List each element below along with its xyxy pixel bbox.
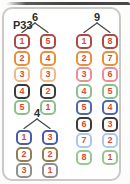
number-cell-digit: 1 — [107, 153, 112, 162]
bond-pair-row: 15 — [14, 34, 56, 49]
number-cell: 4 — [102, 100, 118, 115]
bond-pair-row: 45 — [76, 84, 118, 99]
number-cell: 3 — [76, 67, 92, 82]
number-cell: 5 — [102, 84, 118, 99]
bond-pairs: 1524334251 — [14, 34, 56, 115]
number-cell-digit: 3 — [81, 70, 86, 79]
number-cell-digit: 3 — [21, 166, 26, 175]
bond-pair-row: 31 — [16, 163, 58, 178]
bond-pair-row: 54 — [76, 100, 118, 115]
number-cell: 8 — [102, 34, 118, 49]
card-id: P33 — [13, 19, 33, 31]
number-cell-digit: 2 — [21, 150, 26, 159]
bond-pair-row: 24 — [14, 51, 56, 66]
bond-pair-row: 42 — [14, 84, 56, 99]
number-cell: 1 — [16, 130, 32, 145]
bond-pair-row: 13 — [16, 130, 58, 145]
number-cell: 7 — [102, 51, 118, 66]
number-cell: 3 — [42, 130, 58, 145]
bond-pair-row: 22 — [16, 147, 58, 162]
number-cell-digit: 2 — [81, 54, 86, 63]
number-cell: 2 — [76, 51, 92, 66]
bond-pair-row: 81 — [76, 150, 118, 165]
number-bond-group-4: 4132231 — [16, 107, 58, 178]
number-cell: 1 — [76, 34, 92, 49]
number-cell-digit: 8 — [107, 37, 112, 46]
bond-pair-row: 63 — [76, 117, 118, 132]
number-cell-digit: 1 — [21, 133, 26, 142]
number-cell-digit: 2 — [45, 87, 50, 96]
number-cell: 2 — [42, 147, 58, 162]
number-cell: 3 — [14, 67, 30, 82]
number-cell: 5 — [40, 34, 56, 49]
number-cell-digit: 4 — [45, 54, 50, 63]
bond-branch-lines-icon — [76, 22, 118, 33]
number-cell-digit: 2 — [19, 54, 24, 63]
top-sheet-edge — [6, 2, 130, 5]
number-cell-digit: 2 — [107, 136, 112, 145]
number-cell: 2 — [14, 51, 30, 66]
number-cell-digit: 1 — [47, 166, 52, 175]
number-cell: 5 — [76, 100, 92, 115]
number-cell-digit: 6 — [81, 120, 86, 129]
number-cell: 8 — [76, 150, 92, 165]
bond-pair-row: 33 — [14, 67, 56, 82]
number-cell-digit: 3 — [47, 133, 52, 142]
number-cell: 1 — [42, 163, 58, 178]
number-cell: 2 — [16, 147, 32, 162]
number-cell-digit: 3 — [107, 120, 112, 129]
number-cell-digit: 4 — [107, 103, 112, 112]
number-cell-digit: 3 — [45, 70, 50, 79]
number-cell: 4 — [76, 84, 92, 99]
number-cell-digit: 6 — [107, 70, 112, 79]
number-cell: 1 — [14, 34, 30, 49]
number-cell: 3 — [40, 67, 56, 82]
number-cell: 4 — [40, 51, 56, 66]
bond-pair-row: 72 — [76, 133, 118, 148]
number-cell-digit: 5 — [107, 87, 112, 96]
number-cell: 4 — [14, 84, 30, 99]
number-cell: 1 — [102, 150, 118, 165]
number-bond-group-9: 91827364554637281 — [76, 11, 118, 165]
number-cell-digit: 5 — [45, 37, 50, 46]
number-cell: 7 — [76, 133, 92, 148]
bond-pair-row: 36 — [76, 67, 118, 82]
number-cell: 3 — [16, 163, 32, 178]
number-cell-digit: 1 — [81, 37, 86, 46]
number-cell: 6 — [102, 67, 118, 82]
number-cell-digit: 8 — [81, 153, 86, 162]
number-cell-digit: 1 — [19, 37, 24, 46]
number-cell-digit: 7 — [81, 136, 86, 145]
bond-branch-lines-icon — [16, 118, 58, 129]
number-cell: 6 — [76, 117, 92, 132]
bond-pairs: 132231 — [16, 130, 58, 178]
number-cell-digit: 4 — [19, 87, 24, 96]
number-cell-digit: 2 — [47, 150, 52, 159]
number-cell: 3 — [102, 117, 118, 132]
bond-pair-row: 18 — [76, 34, 118, 49]
number-cell: 2 — [102, 133, 118, 148]
bond-pairs: 1827364554637281 — [76, 34, 118, 165]
number-cell-digit: 7 — [107, 54, 112, 63]
number-cell-digit: 4 — [81, 87, 86, 96]
number-cell: 2 — [40, 84, 56, 99]
number-cell-digit: 3 — [19, 70, 24, 79]
number-cell-digit: 5 — [81, 103, 86, 112]
bond-pair-row: 27 — [76, 51, 118, 66]
